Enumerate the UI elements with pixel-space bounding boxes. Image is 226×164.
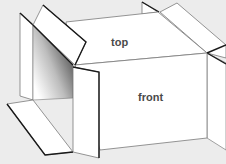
box-diagram: top front	[0, 0, 226, 164]
left-side-panel	[20, 13, 33, 100]
front-label: front	[138, 91, 163, 103]
top-label: top	[111, 36, 128, 48]
right-side-face	[207, 53, 226, 150]
left-front-flap	[73, 67, 99, 158]
